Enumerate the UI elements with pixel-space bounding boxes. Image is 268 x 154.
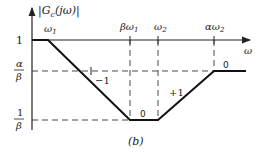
- bode-magnitude-diagram: |Gc(jω)| ω 1 α β 1 β ω1 βω1 ω2 αω2 −1 0 …: [0, 0, 268, 154]
- slope-label-zero-mid: 0: [140, 109, 146, 119]
- x-tick-alpha-omega2: αω2: [205, 21, 225, 34]
- x-tick-omega1: ω1: [44, 23, 57, 36]
- x-ticks: [91, 36, 214, 75]
- figure-caption: (b): [128, 135, 144, 148]
- svg-text:α: α: [16, 58, 23, 69]
- slope-label-zero-end: 0: [223, 60, 229, 70]
- y-tick-one: 1: [16, 34, 23, 47]
- y-tick-alpha-over-beta: α β: [14, 58, 24, 82]
- x-tick-beta-omega1: βω1: [119, 21, 138, 34]
- x-axis-label: ω: [244, 45, 252, 56]
- svg-text:β: β: [15, 71, 22, 82]
- slope-label-plus-one: +1: [169, 87, 184, 98]
- y-axis-label: |Gc(jω)|: [38, 4, 80, 19]
- slope-label-minus-one: −1: [95, 75, 110, 86]
- svg-text:1: 1: [17, 107, 23, 118]
- x-tick-omega2: ω2: [154, 21, 167, 34]
- svg-text:β: β: [15, 120, 22, 131]
- y-tick-one-over-beta: 1 β: [14, 107, 24, 131]
